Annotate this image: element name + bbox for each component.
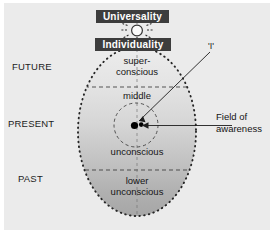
time-label-past: PAST [18,174,43,184]
diagram-root: Universality Individuality FUTURE PRESEN… [0,0,274,233]
callout-field-line2: awareness [216,124,262,135]
sun-starburst-icon [121,20,154,40]
callout-field-line1: Field of [216,112,247,123]
level-label-superconscious-line2: conscious [97,67,177,78]
individuality-band: Individuality [95,38,171,51]
time-label-future: FUTURE [12,62,52,72]
callout-self-label: 'I' [208,41,214,51]
level-label-middle: middle [97,91,177,102]
time-label-present: PRESENT [8,119,54,129]
universality-band: Universality [96,10,169,23]
level-label-lower-line2: unconscious [92,187,182,198]
level-label-unconscious: unconscious [92,147,182,158]
